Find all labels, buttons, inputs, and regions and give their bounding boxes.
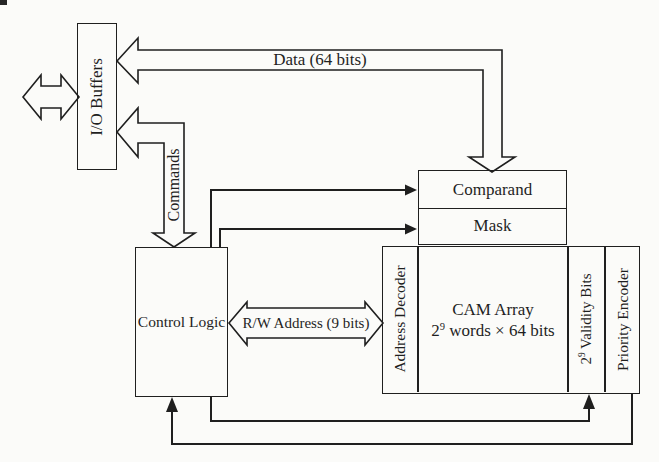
- cam-array-box: [382, 246, 640, 394]
- control-to-mask-line: [220, 229, 409, 247]
- control-to-validity-arrowhead: [583, 394, 595, 409]
- commands-arrow: [117, 108, 195, 247]
- mask-box: Mask: [418, 208, 567, 245]
- priority-to-control-arrowhead: [166, 397, 178, 412]
- cam-architecture-diagram: Control Logic Comparand Mask I/O Buffers…: [0, 0, 659, 462]
- validity-bits-divider: [567, 247, 569, 392]
- control-to-validity-line: [211, 397, 589, 421]
- priority-to-control-line: [172, 394, 632, 444]
- rw-address-arrow: [229, 302, 383, 345]
- comparand-box: Comparand: [418, 170, 567, 209]
- control-to-comparand-arrowhead: [405, 185, 417, 196]
- mask-label: Mask: [474, 216, 512, 236]
- control-to-mask-arrowhead: [405, 224, 417, 235]
- external-io-arrow: [23, 75, 79, 119]
- control-to-comparand-line: [211, 190, 409, 247]
- address-decoder-divider: [417, 247, 419, 392]
- scan-artifact: [0, 0, 7, 5]
- comparand-label: Comparand: [453, 180, 532, 200]
- control-logic-label: Control Logic: [138, 313, 225, 331]
- control-logic-box: Control Logic: [135, 247, 228, 397]
- priority-encoder-divider: [604, 247, 606, 392]
- io-buffers-box: [77, 23, 117, 170]
